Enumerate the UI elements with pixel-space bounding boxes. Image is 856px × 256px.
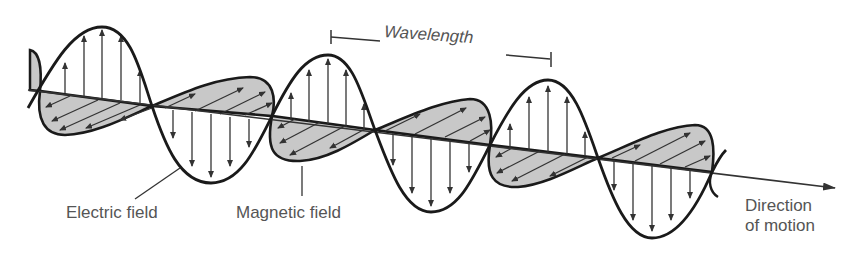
- direction-of-motion-label: Direction of motion: [745, 196, 815, 236]
- magnetic-lobe-partial: [30, 50, 41, 91]
- direction-label-line1: Direction: [745, 196, 815, 216]
- magnetic-field-label: Magnetic field: [236, 203, 341, 223]
- direction-label-line2: of motion: [745, 216, 815, 236]
- electric-field-label: Electric field: [66, 203, 158, 223]
- magnetic-lobe-tail: [710, 172, 718, 197]
- electric-field-leader: [135, 168, 180, 199]
